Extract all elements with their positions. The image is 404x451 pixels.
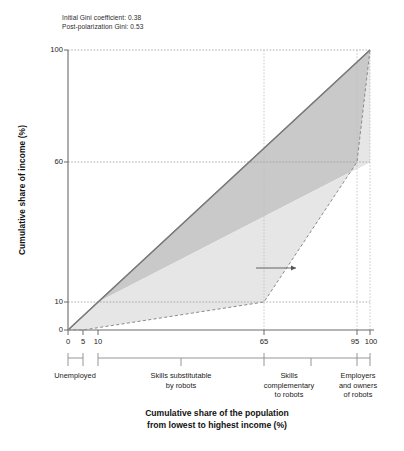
lorenz-curve-chart: Initial Gini coefficient: 0.38 Post-pola… (0, 0, 404, 451)
chart-canvas (0, 0, 404, 451)
effect-arrow-head (291, 266, 296, 271)
